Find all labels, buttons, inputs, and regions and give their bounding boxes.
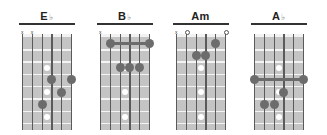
- inlay-dot: [44, 114, 50, 120]
- string-line: [120, 34, 121, 130]
- barre-end-dot: [299, 75, 308, 84]
- nut: [100, 34, 150, 37]
- barre-bar: [110, 42, 149, 45]
- barre-bar: [254, 78, 303, 81]
- open-string-icon: [224, 30, 229, 35]
- fret-line: [254, 49, 304, 51]
- fret-line: [254, 123, 304, 125]
- string-line: [32, 34, 33, 130]
- fret-line: [254, 61, 304, 63]
- string-line: [100, 34, 101, 130]
- inlay-dot: [122, 89, 128, 95]
- fret-line: [22, 61, 72, 63]
- fret-line: [254, 74, 304, 76]
- string-line: [283, 34, 284, 130]
- string-line: [61, 34, 62, 130]
- fret-line: [254, 111, 304, 113]
- string-line: [186, 34, 187, 130]
- fret-line: [100, 49, 150, 51]
- chord-diagram-2: B♭x: [95, 0, 155, 135]
- nut: [22, 34, 72, 37]
- string-line: [129, 34, 130, 130]
- inlay-dot: [276, 65, 282, 71]
- string-line: [215, 34, 216, 130]
- fret-line: [22, 49, 72, 51]
- barre-end-dot: [106, 39, 115, 48]
- finger-dot: [192, 51, 201, 60]
- finger-dot: [67, 75, 76, 84]
- chord-diagram-3: Amx: [171, 0, 231, 135]
- string-line: [225, 34, 226, 130]
- fret-line: [22, 98, 72, 100]
- chord-title: Am: [171, 10, 231, 22]
- inlay-dot: [198, 65, 204, 71]
- string-line: [264, 34, 265, 130]
- string-line: [293, 34, 294, 130]
- string-line: [274, 34, 275, 130]
- fret-line: [176, 98, 226, 100]
- inlay-dot: [122, 114, 128, 120]
- finger-dot: [270, 100, 279, 109]
- string-line: [205, 34, 206, 130]
- fret-line: [22, 86, 72, 88]
- fret-line: [176, 86, 226, 88]
- fret-line: [254, 86, 304, 88]
- finger-dot: [38, 100, 47, 109]
- chord-name: A: [272, 10, 280, 22]
- chord-diagram-4: A♭: [249, 0, 309, 135]
- chord-diagram-1: E♭xx: [17, 0, 77, 135]
- fret-line: [100, 98, 150, 100]
- muted-string-icon: x: [31, 30, 34, 35]
- title-rule: [19, 23, 75, 25]
- fret-line: [100, 86, 150, 88]
- nut: [254, 34, 304, 37]
- fret-line: [100, 61, 150, 63]
- chord-title: E♭: [17, 10, 77, 22]
- string-line: [110, 34, 111, 130]
- inlay-dot: [198, 89, 204, 95]
- fret-line: [254, 98, 304, 100]
- fret-line: [22, 111, 72, 113]
- fret-line: [176, 111, 226, 113]
- flat-icon: ♭: [281, 12, 286, 22]
- inlay-dot: [276, 114, 282, 120]
- string-line: [149, 34, 150, 130]
- fret-line: [176, 61, 226, 63]
- finger-dot: [116, 63, 125, 72]
- fret-line: [100, 74, 150, 76]
- string-line: [42, 34, 43, 130]
- string-line: [196, 34, 197, 130]
- inlay-dot: [198, 114, 204, 120]
- chord-title: B♭: [95, 10, 155, 22]
- fret-line: [22, 74, 72, 76]
- muted-string-icon: x: [21, 30, 24, 35]
- string-line: [139, 34, 140, 130]
- muted-string-icon: x: [175, 30, 178, 35]
- flat-icon: ♭: [127, 12, 132, 22]
- muted-string-icon: x: [99, 30, 102, 35]
- flat-icon: ♭: [49, 12, 54, 22]
- fret-line: [176, 49, 226, 51]
- chord-name: Am: [191, 10, 210, 22]
- title-rule: [173, 23, 229, 25]
- nut: [176, 34, 226, 37]
- inlay-dot: [44, 65, 50, 71]
- fret-line: [100, 123, 150, 125]
- fret-line: [176, 74, 226, 76]
- chord-name: E: [40, 10, 48, 22]
- inlay-dot: [44, 89, 50, 95]
- chord-title: A♭: [249, 10, 309, 22]
- title-rule: [251, 23, 307, 25]
- open-string-icon: [185, 30, 190, 35]
- string-line: [22, 34, 23, 130]
- barre-end-dot: [145, 39, 154, 48]
- finger-dot: [57, 88, 66, 97]
- fret-line: [176, 123, 226, 125]
- fret-line: [22, 123, 72, 125]
- fret-line: [100, 111, 150, 113]
- finger-dot: [211, 39, 220, 48]
- chord-name: B: [118, 10, 126, 22]
- string-line: [176, 34, 177, 130]
- title-rule: [97, 23, 153, 25]
- finger-dot: [260, 100, 269, 109]
